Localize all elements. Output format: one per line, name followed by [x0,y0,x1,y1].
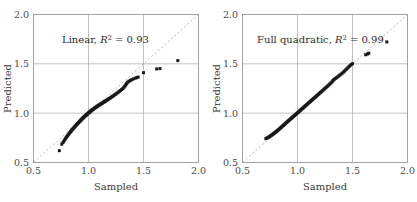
y-tick-label: 1.0 [14,108,29,119]
x-tick-label: 2.0 [399,165,414,176]
data-series [58,59,179,152]
y-axis-title: Predicted [2,63,13,113]
data-point [367,52,370,55]
y-tick-label: 0.5 [14,157,29,168]
data-point [155,67,158,70]
y-tick-label: 2.0 [14,9,29,20]
x-axis-title: Sampled [94,181,139,192]
y-tick-label: 0.5 [222,157,237,168]
x-tick-label: 1.0 [289,165,304,176]
x-tick-label: 1.5 [344,165,359,176]
x-tick-label: 1.0 [81,165,96,176]
plot-area-linear: 0.51.01.52.00.51.01.52.0SampledPredicted… [0,0,209,202]
y-tick-label: 1.0 [222,108,237,119]
model-annotation: Linear, R2 = 0.93 [62,34,149,45]
data-series [264,40,388,140]
x-axis-title: Sampled [302,181,347,192]
y-tick-label: 1.5 [222,58,237,69]
panel-linear: 0.51.01.52.00.51.01.52.0SampledPredicted… [0,0,209,202]
data-point [137,76,140,79]
data-point [176,59,179,62]
x-tick-label: 2.0 [191,165,206,176]
y-axis-title: Predicted [210,63,221,113]
plot-area-full-quadratic: 0.51.01.52.00.51.01.52.0SampledPredicted… [209,0,417,202]
panel-full-quadratic: 0.51.01.52.00.51.01.52.0SampledPredicted… [209,0,417,202]
data-point [142,71,145,74]
y-tick-label: 2.0 [222,9,237,20]
data-point [351,62,354,65]
x-tick-label: 1.5 [136,165,151,176]
data-point [159,67,162,70]
data-point [385,40,388,43]
qq-plot-figure: 0.51.01.52.00.51.01.52.0SampledPredicted… [0,0,417,202]
data-point [58,149,61,152]
model-annotation: Full quadratic, R2 = 0.99 [257,34,384,45]
y-tick-label: 1.5 [14,58,29,69]
